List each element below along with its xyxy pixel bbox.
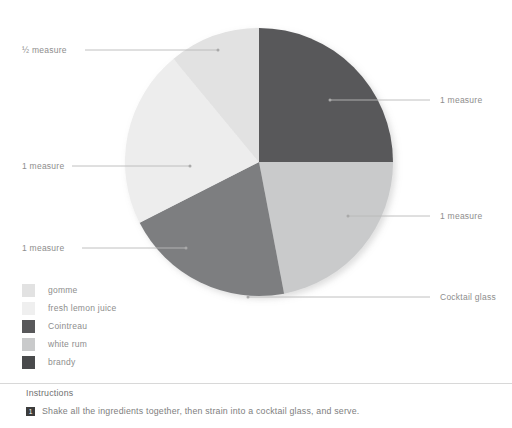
callout-label-white-rum: 1 measure [440,211,482,221]
callout-label-cocktail-glass: Cocktail glass [440,292,496,302]
legend-item-cointreau[interactable]: Cointreau [22,317,117,335]
pie-slice-cointreau[interactable] [259,28,393,162]
section-divider [0,383,512,384]
leader-dot-brandy [185,247,188,250]
leader-dot-fresh-lemon-juice [189,165,192,168]
legend-label-brandy: brandy [48,357,76,368]
legend-item-gomme[interactable]: gomme [22,281,117,299]
legend-item-fresh-lemon-juice[interactable]: fresh lemon juice [22,299,117,317]
callout-label-gomme: ½ measure [22,45,67,55]
instructions-heading: Instructions [26,388,73,398]
leader-dot-white-rum [347,215,350,218]
legend-swatch-cointreau [22,320,35,333]
pie-slices-group [125,28,393,296]
recipe-pie-page: ½ measure 1 measure 1 measure 1 measure … [0,0,512,428]
step-number-badge: 1 [26,407,35,416]
callout-label-brandy: 1 measure [22,243,64,253]
callout-label-cointreau: 1 measure [440,95,482,105]
legend-label-cointreau: Cointreau [48,321,87,332]
legend-label-gomme: gomme [48,285,78,296]
instruction-step: 1 Shake all the ingredients together, th… [26,406,359,417]
legend-swatch-gomme [22,284,35,297]
legend: gomme fresh lemon juice Cointreau white … [22,281,117,371]
leader-dot-gomme [217,49,220,52]
legend-label-fresh-lemon-juice: fresh lemon juice [48,303,117,314]
legend-swatch-brandy [22,356,35,369]
legend-item-brandy[interactable]: brandy [22,353,117,371]
legend-swatch-fresh-lemon-juice [22,302,35,315]
legend-item-white-rum[interactable]: white rum [22,335,117,353]
legend-label-white-rum: white rum [48,339,87,350]
leader-dot-cocktail-glass [247,296,250,299]
callout-label-fresh-lemon-juice: 1 measure [22,161,64,171]
leader-dot-cointreau [329,99,332,102]
legend-swatch-white-rum [22,338,35,351]
step-text: Shake all the ingredients together, then… [42,406,359,417]
